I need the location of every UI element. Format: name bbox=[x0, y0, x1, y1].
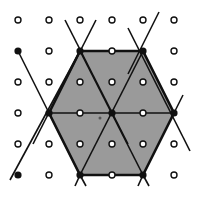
open-dot bbox=[77, 79, 83, 85]
open-dot bbox=[140, 17, 146, 23]
open-dot bbox=[77, 141, 83, 147]
filled-dot bbox=[45, 109, 52, 116]
open-dot bbox=[15, 110, 21, 116]
filled-dot bbox=[170, 109, 177, 116]
center-mark bbox=[99, 117, 102, 120]
open-dot bbox=[171, 79, 177, 85]
open-dot bbox=[171, 17, 177, 23]
open-dot bbox=[140, 79, 146, 85]
open-dot bbox=[77, 110, 83, 116]
open-dot bbox=[109, 79, 115, 85]
open-dot bbox=[46, 17, 52, 23]
open-dot bbox=[15, 79, 21, 85]
filled-dot bbox=[139, 47, 146, 54]
open-dot bbox=[46, 79, 52, 85]
open-dot bbox=[109, 141, 115, 147]
open-dot bbox=[46, 141, 52, 147]
open-dot bbox=[46, 172, 52, 178]
open-dot bbox=[171, 48, 177, 54]
filled-dot bbox=[139, 171, 146, 178]
open-dot bbox=[15, 17, 21, 23]
filled-dot bbox=[76, 171, 83, 178]
lattice-hexagon-diagram bbox=[0, 0, 197, 198]
filled-dot bbox=[76, 47, 83, 54]
open-dot bbox=[46, 48, 52, 54]
filled-dot bbox=[108, 109, 115, 116]
open-dot bbox=[171, 141, 177, 147]
open-dot bbox=[109, 17, 115, 23]
filled-dot bbox=[14, 171, 21, 178]
open-dot bbox=[140, 110, 146, 116]
open-dot bbox=[140, 141, 146, 147]
open-dot bbox=[171, 172, 177, 178]
open-dot bbox=[77, 17, 83, 23]
filled-dot bbox=[14, 47, 21, 54]
open-dot bbox=[109, 48, 115, 54]
open-dot bbox=[109, 172, 115, 178]
open-dot bbox=[15, 141, 21, 147]
